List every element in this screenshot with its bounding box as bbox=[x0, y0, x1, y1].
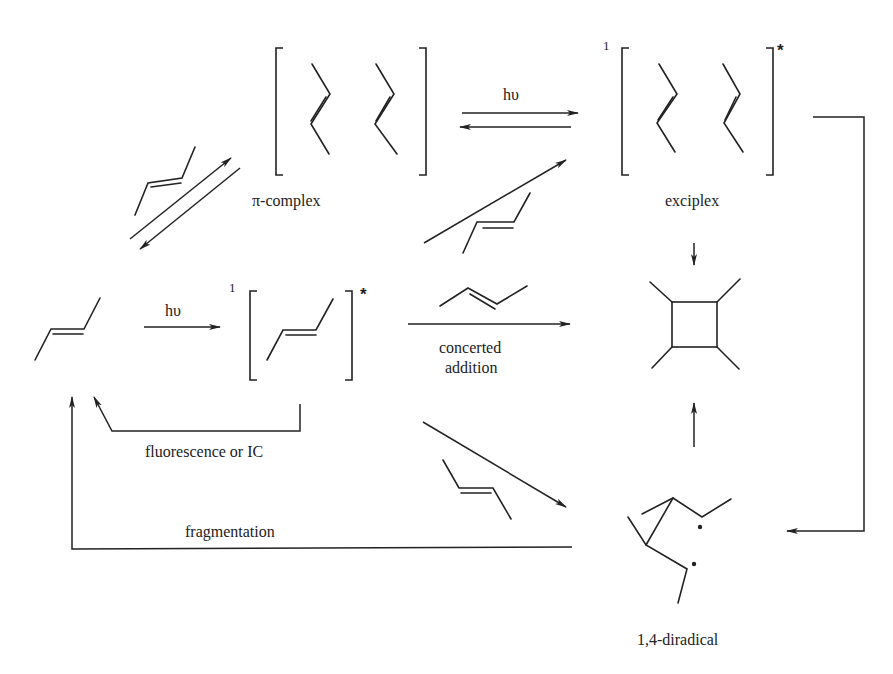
cyclobutane-product bbox=[650, 279, 740, 369]
ground-state-alkene bbox=[35, 298, 100, 360]
exciplex-label: exciplex bbox=[665, 192, 719, 210]
alkene-molecule bbox=[311, 64, 330, 154]
excited-to-exciplex bbox=[424, 160, 566, 253]
reverse-arrow bbox=[140, 168, 240, 249]
forward-arrow bbox=[130, 158, 231, 239]
alkene-molecule bbox=[267, 299, 333, 360]
alkene-molecule bbox=[723, 64, 743, 152]
fluorescence-return: fluorescence or IC bbox=[94, 397, 300, 460]
pi-complex-label: π-complex bbox=[252, 192, 321, 210]
fragmentation-label: fragmentation bbox=[185, 523, 275, 541]
hv-label: hυ bbox=[165, 302, 181, 319]
alkene-molecule bbox=[375, 64, 397, 154]
fragmentation-return: fragmentation bbox=[72, 397, 572, 549]
exciplex-to-diradical-arrow bbox=[787, 117, 864, 531]
fluorescence-arrow bbox=[94, 397, 300, 431]
concerted-label: concerted bbox=[439, 339, 501, 356]
left-bracket bbox=[622, 48, 629, 175]
left-bracket bbox=[276, 48, 283, 175]
radical-dot bbox=[692, 562, 696, 566]
alkene-molecule bbox=[657, 64, 677, 152]
hv-label: hυ bbox=[503, 86, 519, 103]
fragmentation-arrow bbox=[72, 397, 572, 549]
reaction-scheme: π-complex 1 * exciplex hυ bbox=[0, 0, 893, 674]
concerted-addition: concerted addition bbox=[408, 286, 570, 376]
excited-star: * bbox=[777, 41, 784, 60]
radical-dot bbox=[698, 525, 702, 529]
right-bracket bbox=[766, 48, 773, 175]
singlet-excited-alkene: 1 * bbox=[229, 280, 367, 380]
right-bracket bbox=[419, 48, 426, 175]
diradical-label: 1,4-diradical bbox=[637, 631, 719, 648]
hv-equilibrium-arrows: hυ bbox=[460, 86, 578, 127]
diradical: 1,4-diradical bbox=[628, 498, 731, 648]
singlet-superscript: 1 bbox=[229, 280, 236, 295]
singlet-superscript: 1 bbox=[603, 38, 610, 53]
arrow bbox=[423, 422, 566, 507]
pi-complex: π-complex bbox=[252, 48, 426, 210]
arrow bbox=[424, 160, 566, 243]
photoexcitation: hυ bbox=[144, 302, 220, 327]
exciplex: 1 * exciplex bbox=[603, 38, 784, 210]
addition-label: addition bbox=[445, 359, 497, 376]
alkene-reagent bbox=[440, 286, 527, 309]
alkene-reagent bbox=[135, 147, 195, 215]
left-bracket bbox=[250, 291, 257, 380]
excited-star: * bbox=[360, 285, 367, 304]
pi-complex-formation bbox=[130, 147, 240, 249]
alkene-reagent bbox=[463, 193, 530, 253]
right-bracket bbox=[345, 291, 352, 380]
excited-to-diradical bbox=[423, 422, 566, 519]
fluorescence-label: fluorescence or IC bbox=[145, 443, 263, 460]
